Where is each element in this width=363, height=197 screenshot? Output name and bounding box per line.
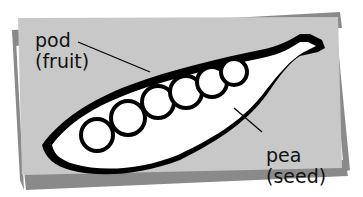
pea-pod-diagram: pod (fruit) pea (seed): [0, 0, 363, 197]
pea-label: pea (seed): [266, 145, 326, 187]
pod-label-type: (fruit): [35, 51, 89, 72]
pea-label-name: pea: [266, 145, 326, 166]
pod-label: pod (fruit): [35, 30, 89, 72]
pod-label-name: pod: [35, 30, 89, 51]
pea-label-type: (seed): [266, 166, 326, 187]
